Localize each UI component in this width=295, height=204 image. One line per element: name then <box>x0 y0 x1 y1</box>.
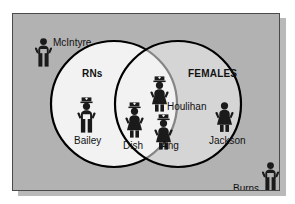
female-figure-icon-jackson <box>215 102 234 132</box>
member-label-bailey: Bailey <box>74 136 101 146</box>
member-label-burns: Burns <box>233 184 259 191</box>
male-figure-icon-mcintyre <box>35 38 52 67</box>
member-label-dish: Dish <box>123 141 143 151</box>
male-nurse-figure-icon-bailey <box>77 97 96 133</box>
venn-diagram-panel: RNs FEMALES <box>12 13 280 191</box>
member-label-ang: Ang <box>161 141 179 151</box>
member-label-mcintyre: McIntyre <box>53 38 91 48</box>
member-label-jackson: Jackson <box>209 136 246 146</box>
female-nurse-figure-icon-dish <box>125 102 144 138</box>
set-label-females: FEMALES <box>188 69 237 79</box>
set-label-rns: RNs <box>82 69 103 79</box>
diagram-canvas: RNs FEMALES <box>0 0 295 204</box>
member-label-houlihan: Houlihan <box>167 102 206 112</box>
male-figure-icon-burns <box>262 162 279 191</box>
